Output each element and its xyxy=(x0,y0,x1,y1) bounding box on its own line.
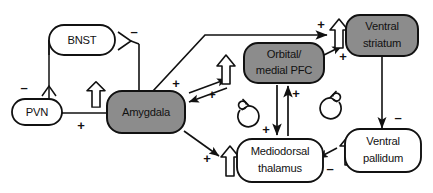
sign-amygdala-to-ventral-striatum: + xyxy=(317,17,325,32)
node-orbital-medial-pfc-label-line2: medial PFC xyxy=(256,64,313,76)
node-pvn-label: PVN xyxy=(26,106,49,118)
hollow-up-arrow-pvn xyxy=(87,82,105,107)
node-bnst-label: BNST xyxy=(67,34,96,46)
node-ventral-pallidum-label-line1: Ventral xyxy=(366,135,399,147)
sign-ventral-striatum-to-ventral-pallidum: – xyxy=(394,110,401,125)
loop-counterclockwise-icon xyxy=(320,92,341,119)
diagram-canvas: BNST PVN Amygdala Orbital/ medial PFC Ve… xyxy=(0,0,433,193)
sign-pfc-to-ventral-striatum: + xyxy=(339,49,347,64)
sign-pfc-to-mediodorsal: + xyxy=(262,122,270,137)
node-ventral-striatum[interactable]: Ventral striatum xyxy=(346,15,418,56)
circuit-diagram: BNST PVN Amygdala Orbital/ medial PFC Ve… xyxy=(0,0,433,193)
node-amygdala[interactable]: Amygdala xyxy=(107,91,185,133)
node-mediodorsal-thalamus[interactable]: Mediodorsal thalamus xyxy=(237,139,323,182)
node-orbital-medial-pfc[interactable]: Orbital/ medial PFC xyxy=(244,43,324,83)
sign-amygdala-to-pfc: + xyxy=(172,76,180,91)
node-bnst[interactable]: BNST xyxy=(49,25,115,55)
node-ventral-pallidum-label-line2: pallidum xyxy=(363,152,403,164)
hollow-up-arrow-pfc xyxy=(217,55,235,84)
node-ventral-striatum-label-line2: striatum xyxy=(363,37,401,49)
node-amygdala-label: Amygdala xyxy=(122,106,171,118)
node-ventral-striatum-label-line1: Ventral xyxy=(365,20,398,32)
node-orbital-medial-pfc-label-line1: Orbital/ xyxy=(267,48,303,60)
sign-ventral-pallidum-to-mediodorsal: – xyxy=(326,161,333,176)
loop-clockwise-icon xyxy=(238,100,259,127)
sign-bnst-to-pvn: – xyxy=(20,80,27,95)
node-pvn[interactable]: PVN xyxy=(12,99,62,125)
node-mediodorsal-thalamus-label-line1: Mediodorsal xyxy=(251,145,310,157)
sign-pfc-to-amygdala: + xyxy=(208,87,216,102)
edge-bnst-output xyxy=(118,32,139,91)
node-ventral-pallidum[interactable]: Ventral pallidum xyxy=(345,129,421,172)
edge-amygdala-to-mediodorsal xyxy=(184,131,219,156)
sign-mediodorsal-to-pfc: + xyxy=(292,86,300,101)
sign-amygdala-to-pvn: + xyxy=(77,118,85,133)
sign-bnst-output: – xyxy=(130,24,137,39)
sign-amygdala-to-mediodorsal: + xyxy=(203,151,211,166)
node-mediodorsal-thalamus-label-line2: thalamus xyxy=(258,162,302,174)
